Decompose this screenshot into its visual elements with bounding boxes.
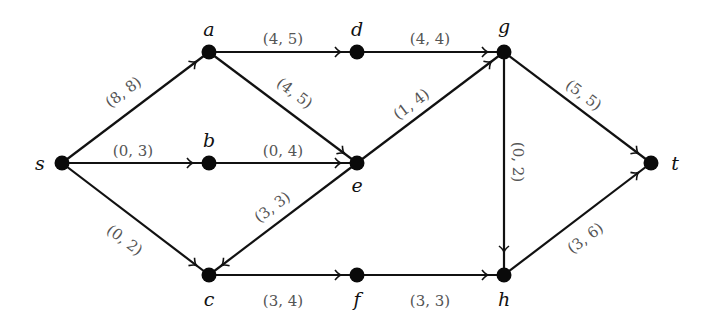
node-dot: [644, 156, 659, 171]
node-f: f: [350, 268, 365, 311]
edge-label: (1, 4): [390, 85, 433, 124]
edge-label: (3, 4): [263, 292, 303, 310]
node-dot: [202, 156, 217, 171]
node-g: g: [497, 15, 512, 60]
node-label: s: [35, 152, 45, 174]
edge-a-d: [209, 47, 357, 57]
node-b: b: [202, 129, 217, 171]
node-dot: [497, 45, 512, 60]
node-label: d: [351, 18, 363, 40]
edge-label: (4, 5): [273, 74, 316, 113]
node-label: f: [351, 288, 363, 310]
node-label: t: [671, 152, 679, 174]
edge-e-g: [357, 52, 504, 163]
node-dot: [497, 268, 512, 283]
node-dot: [202, 45, 217, 60]
edge-label: (3, 3): [251, 188, 294, 227]
edge-label: (4, 4): [410, 30, 450, 48]
node-label: e: [351, 174, 362, 196]
node-dot: [350, 156, 365, 171]
node-label: a: [203, 18, 214, 40]
node-dot: [202, 268, 217, 283]
edge-d-g: [357, 47, 504, 57]
edge-e-c: [209, 163, 357, 275]
edge-label: (0, 2): [103, 221, 146, 260]
node-e: e: [350, 156, 365, 197]
edge-line: [357, 52, 504, 163]
edge-label: (0, 2): [509, 142, 527, 182]
edge-g-h: [499, 52, 509, 275]
node-label: h: [498, 288, 510, 310]
node-t: t: [644, 152, 680, 174]
node-d: d: [350, 18, 365, 60]
node-dot: [55, 156, 70, 171]
node-h: h: [497, 268, 512, 311]
edge-label: (0, 4): [263, 142, 303, 160]
edge-label: (5, 5): [562, 76, 605, 115]
edge-label: (4, 5): [263, 30, 303, 48]
node-c: c: [202, 268, 217, 311]
node-label: b: [203, 129, 215, 151]
flow-network-diagram: (8, 8)(0, 3)(0, 2)(4, 5)(4, 5)(0, 4)(4, …: [0, 0, 708, 334]
edge-c-f: [209, 270, 357, 280]
edge-line: [209, 163, 357, 275]
node-label: c: [204, 288, 215, 310]
node-a: a: [202, 18, 217, 60]
node-label: g: [498, 15, 510, 37]
edge-label: (0, 3): [113, 142, 153, 160]
node-dot: [350, 268, 365, 283]
edge-f-h: [357, 270, 504, 280]
node-s: s: [35, 152, 69, 174]
node-dot: [350, 45, 365, 60]
edge-label: (3, 3): [410, 292, 450, 310]
